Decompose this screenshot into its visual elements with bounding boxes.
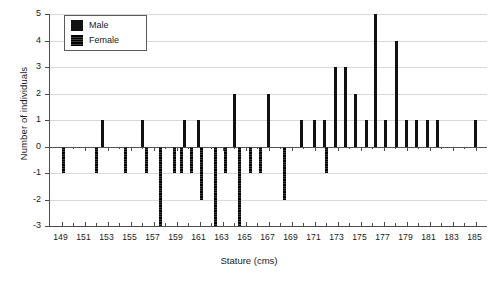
x-tick-mark [361,222,362,226]
x-tick-mark [395,223,396,226]
x-tick-mark-zero [384,147,385,151]
legend-swatch-male-icon [71,20,83,31]
bar-male [405,120,408,147]
y-tick-label: 0 [1,141,41,151]
x-tick-mark-zero [292,147,293,151]
x-tick-mark-zero [142,147,143,150]
bar-female [145,147,148,174]
x-tick-mark-zero [407,147,408,151]
x-tick-mark [418,223,419,226]
x-tick-mark [441,223,442,226]
x-tick-label: 163 [211,232,233,242]
x-tick-mark [154,222,155,226]
x-tick-mark [62,222,63,226]
y-tick-mark [45,173,50,174]
x-tick-mark [73,223,74,226]
chart-legend: Male Female [64,15,147,51]
bar-male [141,120,144,147]
x-tick-label: 185 [464,232,486,242]
x-tick-mark-zero [165,147,166,150]
x-tick-mark-zero [303,147,304,150]
bar-male [436,120,439,147]
bar-female [124,147,127,174]
x-tick-mark-zero [234,147,235,150]
x-tick-mark [280,223,281,226]
bar-male [323,120,326,147]
legend-item-female: Female [71,34,119,47]
bar-male [395,41,398,147]
x-tick-label: 159 [165,232,187,242]
y-tick-label: 5 [1,8,41,18]
x-tick-label: 155 [119,232,141,242]
bar-male [365,120,368,147]
x-tick-label: 175 [349,232,371,242]
y-tick-mark [45,147,50,148]
bar-female [259,147,262,174]
x-tick-mark-zero [73,147,74,150]
x-tick-mark [246,222,247,226]
x-tick-label: 149 [50,232,72,242]
x-tick-mark [211,223,212,226]
x-tick-mark-zero [476,147,477,151]
x-tick-mark [188,223,189,226]
chart-figure: Number of individuals Stature (cms) -3-2… [0,0,498,285]
bar-female [200,147,203,200]
x-tick-mark-zero [211,147,212,150]
x-tick-mark [476,222,477,226]
bar-male [474,120,477,147]
x-tick-mark-zero [246,147,247,151]
x-tick-mark-zero [372,147,373,150]
bar-female [238,147,241,227]
y-tick-mark [45,200,50,201]
x-tick-label: 169 [280,232,302,242]
x-tick-mark [119,223,120,226]
x-tick-mark-zero [441,147,442,150]
y-tick-label: 4 [1,35,41,45]
bar-female [173,147,176,174]
x-tick-mark-zero [269,147,270,151]
x-tick-mark-zero [430,147,431,151]
gridline [50,67,487,68]
bar-female [249,147,252,174]
legend-label-female: Female [89,36,119,45]
x-tick-mark-zero [108,147,109,151]
x-tick-label: 183 [441,232,463,242]
x-tick-mark-zero [188,147,189,150]
y-tick-label: -2 [1,194,41,204]
x-tick-mark [165,223,166,226]
bar-male [344,67,347,147]
x-tick-mark-zero [223,147,224,151]
x-tick-mark-zero [464,147,465,150]
y-tick-mark [45,94,50,95]
x-tick-mark-zero [154,147,155,151]
bar-male [384,120,387,147]
bar-female [224,147,227,174]
y-tick-mark [45,41,50,42]
y-tick-label: 1 [1,114,41,124]
y-tick-label: -3 [1,220,41,230]
x-axis-line [50,226,487,227]
bar-female [190,147,193,174]
x-tick-mark [326,223,327,226]
x-tick-mark [177,222,178,226]
x-tick-label: 167 [257,232,279,242]
x-tick-mark [303,223,304,226]
y-tick-label: 3 [1,61,41,71]
bar-male [426,120,429,147]
x-axis-title: Stature (cms) [0,255,498,266]
gridline [50,200,487,201]
x-tick-label: 165 [234,232,256,242]
bar-female [325,147,328,174]
bar-male [313,120,316,147]
legend-item-male: Male [71,19,109,32]
gridline [50,173,487,174]
bar-female [62,147,65,174]
x-tick-label: 173 [326,232,348,242]
y-tick-mark [45,67,50,68]
legend-swatch-female-icon [71,35,83,46]
y-tick-label: 2 [1,88,41,98]
bar-female [180,147,183,174]
bar-male [415,120,418,147]
x-tick-mark-zero [315,147,316,151]
bar-male [374,14,377,147]
